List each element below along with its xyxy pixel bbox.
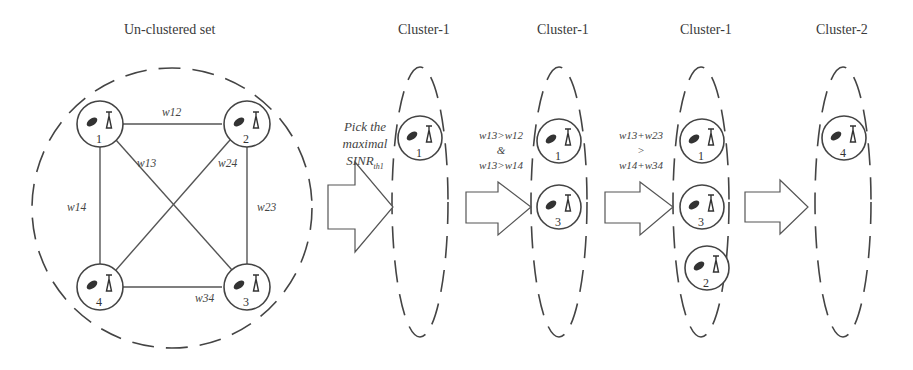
step2-condition: w13>w12 & w13>w14	[466, 128, 536, 173]
node-label: 1	[416, 146, 422, 161]
edge-weight-w12: w12	[162, 106, 181, 118]
arrow-step3	[605, 182, 673, 235]
node-label: 1	[555, 149, 561, 164]
edge-weight-w14: w14	[67, 201, 86, 213]
cluster-ellipse-stage1	[392, 67, 448, 337]
edge-weight-w13: w13	[137, 157, 156, 169]
step1-condition: Pick the maximal SINRth1	[330, 118, 400, 175]
step3-line3: w14+w34	[606, 158, 676, 173]
arrow-step1	[328, 162, 393, 252]
edge-weight-w24: w24	[218, 157, 237, 169]
node-label: 1	[698, 149, 704, 164]
diagram-canvas	[0, 0, 913, 370]
node-label: 3	[698, 215, 704, 230]
node-label: 4	[96, 295, 102, 310]
step3-line2: >	[606, 143, 676, 158]
graph-edges	[100, 124, 247, 287]
step2-line2: &	[466, 143, 536, 158]
sinr-subscript: th1	[374, 162, 384, 171]
node-label: 4	[840, 146, 846, 161]
step3-condition: w13+w23 > w14+w34	[606, 128, 676, 173]
edge-weight-w23: w23	[257, 201, 276, 213]
node-label: 2	[703, 276, 709, 291]
step1-line2: maximal	[330, 135, 400, 152]
step1-line3: SINRth1	[330, 152, 400, 175]
node-label: 1	[96, 132, 102, 147]
node-label: 3	[555, 215, 561, 230]
step1-line1: Pick the	[330, 118, 400, 135]
title-cluster-stage4: Cluster-2	[816, 22, 868, 38]
title-unclustered: Un-clustered set	[124, 22, 215, 38]
arrow-step2	[466, 182, 531, 235]
sinr-text: SINR	[346, 153, 373, 168]
edge-weight-w34: w34	[195, 292, 214, 304]
node-label: 2	[243, 132, 249, 147]
step2-line1: w13>w12	[466, 128, 536, 143]
title-cluster-stage1: Cluster-1	[398, 22, 450, 38]
arrow-step4	[745, 180, 808, 234]
step2-line3: w13>w14	[466, 158, 536, 173]
title-cluster-stage2: Cluster-1	[537, 22, 589, 38]
step3-line1: w13+w23	[606, 128, 676, 143]
cluster-ellipse-stage4	[815, 67, 871, 337]
title-cluster-stage3: Cluster-1	[680, 22, 732, 38]
node-label: 3	[243, 295, 249, 310]
